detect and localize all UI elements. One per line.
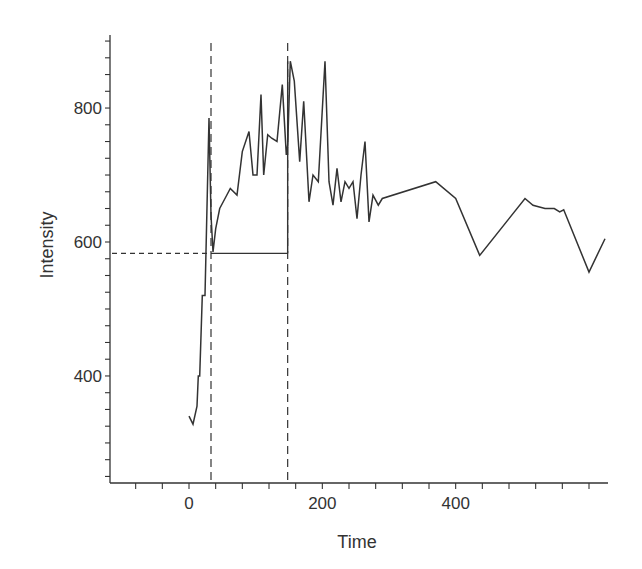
y-tick-label: 400 xyxy=(74,367,102,386)
x-axis-title: Time xyxy=(337,532,376,552)
y-tick-label: 600 xyxy=(74,233,102,252)
intensity-line xyxy=(189,61,605,424)
y-axis-title: Intensity xyxy=(37,211,57,278)
data-series xyxy=(189,61,605,424)
axes: 4006008000200400 xyxy=(74,35,608,513)
y-tick-label: 800 xyxy=(74,99,102,118)
x-tick-label: 0 xyxy=(184,494,193,513)
intensity-time-chart: 4006008000200400 Time Intensity xyxy=(0,0,642,569)
x-tick-label: 200 xyxy=(308,494,336,513)
x-tick-label: 400 xyxy=(441,494,469,513)
